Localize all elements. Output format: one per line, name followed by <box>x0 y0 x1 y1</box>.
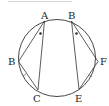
chord-e-f <box>79 62 98 90</box>
label-a: A <box>40 10 49 21</box>
label-b-top: B <box>68 10 75 21</box>
geometry-diagram: A B B F C E <box>0 0 109 106</box>
angle-dot-btop <box>75 32 77 34</box>
label-e: E <box>75 93 82 104</box>
chord-bleft-c <box>19 62 39 91</box>
chord-a-c <box>38 21 45 90</box>
label-b-left: B <box>8 56 15 67</box>
label-f: F <box>100 56 107 67</box>
equal-tick-bc <box>23 74 26 76</box>
angle-dot-a <box>39 32 41 34</box>
label-c: C <box>33 93 41 104</box>
circle <box>19 20 96 97</box>
